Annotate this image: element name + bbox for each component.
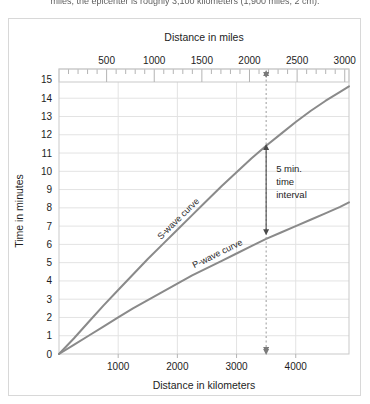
y-tick-label: 1 <box>46 330 52 341</box>
top-tick-band <box>59 69 349 82</box>
y-tick-label: 10 <box>41 166 53 177</box>
y-tick-label: 6 <box>46 239 52 250</box>
time-interval-label-line-2: time <box>276 176 294 187</box>
time-interval-label-line-3: interval <box>276 189 307 200</box>
x-axis-bottom-ticks: 1000200030004000 <box>107 354 307 372</box>
y-tick-label: 3 <box>46 294 52 305</box>
x-tick-label-km: 3000 <box>225 361 248 372</box>
y-tick-label: 11 <box>42 148 53 159</box>
x-tick-label-km: 2000 <box>166 361 189 372</box>
y-tick-label: 4 <box>46 275 52 286</box>
x-tick-label-miles: 1000 <box>143 55 166 66</box>
x-axis-bottom-title: Distance in kilometers <box>153 379 256 391</box>
plot-background <box>59 69 349 354</box>
y-tick-label: 12 <box>41 129 53 140</box>
y-tick-label: 5 <box>46 257 52 268</box>
x-axis-top-title: Distance in miles <box>164 31 243 43</box>
y-axis-title: Time in minutes <box>13 174 25 248</box>
x-tick-label-miles: 3000 <box>334 55 357 66</box>
x-tick-label-km: 4000 <box>285 361 308 372</box>
x-tick-label-miles: 1500 <box>191 55 214 66</box>
y-tick-label: 13 <box>41 111 53 122</box>
y-tick-label: 14 <box>41 93 53 104</box>
x-tick-label-km: 1000 <box>107 361 130 372</box>
y-axis-ticks: 0123456789101112131415 <box>41 74 53 359</box>
tick-band-rect <box>59 69 349 82</box>
figure-caption-above: miles, the epicenter is roughly 3,100 ki… <box>0 0 370 8</box>
x-tick-label-miles: 2500 <box>286 55 309 66</box>
x-tick-label-miles: 500 <box>98 55 115 66</box>
y-tick-label: 15 <box>41 74 53 85</box>
x-axis-top-ticks: 50010001500200025003000 <box>98 55 356 66</box>
y-tick-label: 2 <box>46 312 52 323</box>
y-tick-label: 8 <box>46 202 52 213</box>
figure-container: 50010001500200025003000 1000200030004000… <box>8 18 361 396</box>
y-tick-label: 9 <box>46 184 52 195</box>
y-tick-label: 7 <box>46 221 52 232</box>
y-tick-label: 0 <box>46 349 52 360</box>
x-tick-label-miles: 2000 <box>238 55 261 66</box>
travel-time-chart: 50010001500200025003000 1000200030004000… <box>9 19 360 395</box>
time-interval-label-line-1: 5 min. <box>276 163 302 174</box>
